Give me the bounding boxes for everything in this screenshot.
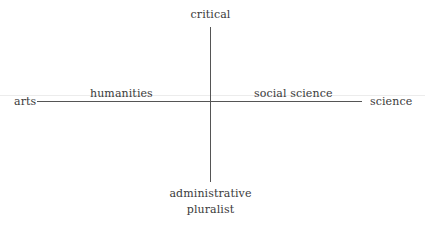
axis-label-critical: critical bbox=[0, 8, 421, 21]
axis-label-arts: arts bbox=[14, 95, 36, 108]
axis-label-science: science bbox=[370, 95, 412, 108]
axis-label-social-science: social science bbox=[254, 87, 333, 100]
faint-scan-line bbox=[0, 95, 425, 96]
vertical-axis-line bbox=[210, 27, 211, 182]
axis-label-administrative: administrative bbox=[0, 186, 421, 202]
horizontal-axis-line bbox=[37, 101, 362, 102]
axis-label-administrative-pluralist: administrative pluralist bbox=[0, 186, 421, 218]
axis-label-pluralist: pluralist bbox=[0, 202, 421, 218]
axis-label-humanities: humanities bbox=[90, 87, 153, 100]
quadrant-diagram: critical arts science humanities social … bbox=[0, 0, 425, 225]
